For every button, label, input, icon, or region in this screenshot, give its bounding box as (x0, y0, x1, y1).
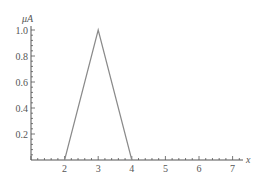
x-tick-label: 2 (62, 163, 67, 174)
y-tick-label: 0.6 (16, 77, 29, 88)
x-tick-label: 7 (230, 163, 235, 174)
y-tick-label: 1.0 (16, 25, 29, 36)
y-ticks: 0.20.40.60.81.0 (16, 25, 36, 155)
x-tick-label: 5 (163, 163, 168, 174)
y-tick-label: 0.4 (16, 103, 29, 114)
y-tick-label: 0.2 (16, 129, 29, 140)
x-tick-label: 4 (129, 163, 134, 174)
x-tick-label: 3 (96, 163, 101, 174)
x-ticks: 234567 (31, 156, 239, 174)
y-tick-label: 0.8 (16, 51, 29, 62)
membership-chart: 234567 0.20.40.60.81.0 μA x (0, 0, 261, 180)
x-tick-label: 6 (197, 163, 202, 174)
x-axis-label: x (245, 154, 251, 165)
membership-line (65, 30, 132, 160)
y-axis-label: μA (21, 13, 34, 24)
